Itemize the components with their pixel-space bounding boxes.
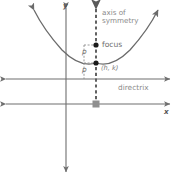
vertex-point bbox=[93, 60, 98, 65]
y-axis-label: y bbox=[63, 2, 68, 10]
directrix-label: directrix bbox=[118, 84, 149, 92]
axis-of-symmetry-label-line2: symmetry bbox=[102, 17, 138, 25]
p-label-upper: p bbox=[82, 48, 87, 56]
axis-of-symmetry-label: axis of symmetry bbox=[102, 9, 138, 24]
diagram-canvas bbox=[0, 0, 176, 180]
axis-intersection-marker bbox=[93, 101, 100, 108]
p-label-lower: p bbox=[82, 66, 87, 74]
focus-label: focus bbox=[102, 41, 122, 49]
vertex-label: (h, k) bbox=[101, 65, 118, 72]
x-axis-label: x bbox=[164, 108, 169, 116]
focus-point bbox=[93, 42, 98, 47]
parabola-diagram: axis of symmetry focus (h, k) directrix … bbox=[0, 0, 176, 180]
